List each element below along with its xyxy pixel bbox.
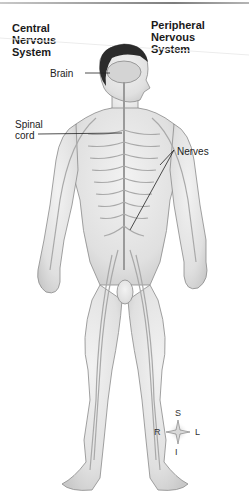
- compass-right-label: R: [154, 427, 161, 437]
- label-brain: Brain: [50, 68, 73, 79]
- compass-inferior-label: I: [175, 447, 178, 457]
- orientation-compass: [166, 420, 190, 444]
- compass-left-label: L: [195, 427, 200, 437]
- label-line: Spinal: [15, 119, 43, 130]
- nervous-system-figure: [0, 0, 249, 502]
- label-spinal-cord: Spinal cord: [15, 119, 43, 141]
- label-nerves: Nerves: [177, 146, 209, 157]
- compass-star-icon: [166, 420, 190, 444]
- compass-superior-label: S: [175, 408, 181, 418]
- brain-shape: [107, 61, 141, 83]
- label-line: cord: [15, 130, 43, 141]
